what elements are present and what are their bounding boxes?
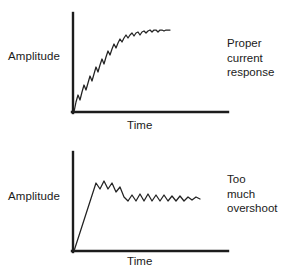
y-axis-label: Amplitude: [8, 49, 60, 63]
caption-too-much-overshoot: Too much overshoot: [227, 172, 278, 216]
x-axis-label: Time: [127, 118, 153, 132]
x-axis-label: Time: [127, 254, 153, 268]
y-axis-label: Amplitude: [8, 189, 60, 203]
caption-proper-response: Proper current response: [227, 36, 274, 80]
response-curve: [74, 181, 200, 251]
step-response-figure: Amplitude Time Proper current response A…: [0, 0, 290, 277]
response-curve: [74, 30, 170, 112]
